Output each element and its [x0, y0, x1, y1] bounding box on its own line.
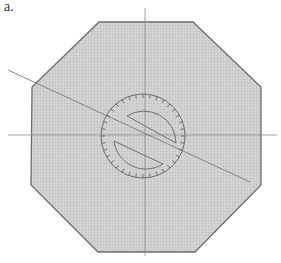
protractor-tick: [180, 129, 184, 130]
protractor-tick: [102, 129, 106, 130]
protractor-tick: [102, 143, 106, 144]
protractor-tick: [136, 95, 137, 99]
protractor-tick: [150, 95, 151, 99]
octagon-shape: [31, 22, 261, 252]
protractor-tick: [150, 173, 151, 177]
octagon-protractor-diagram: [0, 0, 281, 263]
protractor-tick: [180, 143, 184, 144]
protractor-tick: [136, 173, 137, 177]
